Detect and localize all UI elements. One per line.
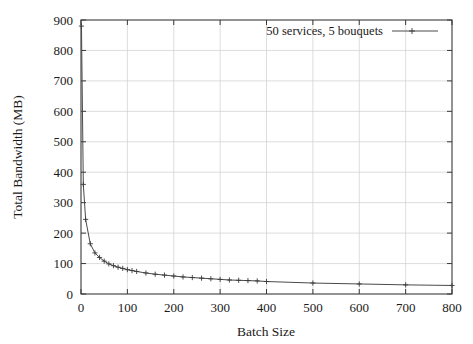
y-tick-label: 700: [54, 73, 74, 88]
x-tick-label: 300: [210, 300, 230, 315]
x-axis-title: Batch Size: [237, 324, 295, 339]
x-tick-label: 0: [78, 300, 85, 315]
y-tick-label: 500: [54, 134, 74, 149]
x-tick-label: 600: [350, 300, 370, 315]
y-axis-title: Total Bandwidth (MB): [10, 95, 25, 219]
legend-entry-label: 50 services, 5 bouquets: [266, 24, 383, 38]
y-tick-label: 800: [54, 43, 74, 58]
x-tick-label: 700: [396, 300, 416, 315]
x-tick-label: 100: [118, 300, 138, 315]
x-tick-label: 200: [164, 300, 184, 315]
y-tick-label: 100: [54, 256, 74, 271]
x-tick-label: 400: [257, 300, 277, 315]
x-tick-label: 500: [303, 300, 323, 315]
x-axis-tick-labels: 0100200300400500600700800: [78, 300, 462, 315]
bandwidth-vs-batch-size-chart: 0100200300400500600700800900 01002003004…: [0, 0, 473, 344]
y-tick-label: 0: [67, 287, 74, 302]
y-tick-label: 900: [54, 13, 74, 28]
y-tick-label: 200: [54, 226, 74, 241]
y-tick-label: 400: [54, 165, 74, 180]
x-tick-label: 800: [442, 300, 462, 315]
y-tick-label: 300: [54, 195, 74, 210]
chart-figure: 0100200300400500600700800900 01002003004…: [0, 0, 473, 344]
y-tick-label: 600: [54, 104, 74, 119]
